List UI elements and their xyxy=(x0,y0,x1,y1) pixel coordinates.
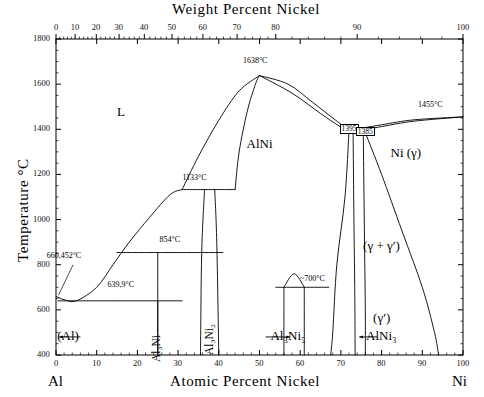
x2tick-label-20: 20 xyxy=(92,23,101,32)
xtick-label-70: 70 xyxy=(336,359,345,368)
annotation-700C: ~700°C xyxy=(300,275,325,283)
boundary-AlNi3-left-bound xyxy=(353,133,355,355)
ytick-label-400: 400 xyxy=(37,350,50,359)
phase-label-Ni-gamma: Ni (γ) xyxy=(391,146,422,159)
phase-label-Al3Ni2: Al₃Ni₂ xyxy=(204,324,216,355)
x2tick-label-50: 50 xyxy=(167,23,176,32)
axis-ticks xyxy=(56,34,463,355)
annotation-1385: 1385 xyxy=(356,127,375,137)
phase-label-AlNi: AlNi xyxy=(247,137,273,150)
xtick-label-0: 0 xyxy=(54,359,58,368)
x2tick-label-40: 40 xyxy=(140,23,149,32)
xtick-label-50: 50 xyxy=(255,359,264,368)
x2tick-label-10: 10 xyxy=(71,23,80,32)
xtick-label-30: 30 xyxy=(174,359,183,368)
boundary-AlNi-solidus-left xyxy=(235,76,259,190)
phase-label-Al3Ni: Al₃Ni xyxy=(151,335,163,362)
phase-label-gamma-prime: (γ′) xyxy=(373,311,390,324)
annotation-660452C: 660,452°C xyxy=(47,252,82,260)
boundary-AlNi-solvus-right xyxy=(260,76,350,131)
xtick-label-90: 90 xyxy=(418,359,427,368)
phase-label-AlNi3: AlNi₃ xyxy=(366,329,397,342)
phase-label-Al-solid-solution: (Al) xyxy=(57,329,79,342)
xtick-label-80: 80 xyxy=(377,359,386,368)
ytick-label-800: 800 xyxy=(37,260,50,269)
axes-frame xyxy=(56,39,463,355)
annotation-1455C: 1455°C xyxy=(418,101,443,109)
phase-label-gamma-plus-gamma-prime: (γ + γ′) xyxy=(363,239,400,252)
phase-label-Al3Ni5: Al₃Ni₅ xyxy=(270,329,305,342)
annotation-1638C: 1638°C xyxy=(243,57,268,65)
ytick-label-1400: 1400 xyxy=(33,124,50,133)
xtick-label-10: 10 xyxy=(92,359,101,368)
xtick-label-100: 100 xyxy=(457,359,470,368)
x2tick-label-60: 60 xyxy=(198,23,207,32)
annotation-854C: 854°C xyxy=(159,236,180,244)
ytick-label-1800: 1800 xyxy=(33,34,50,43)
phase-label-L: L xyxy=(117,105,125,118)
x2tick-label-30: 30 xyxy=(115,23,124,32)
annotation-6399C: 639,9°C xyxy=(108,281,135,289)
x2tick-label-100: 100 xyxy=(457,23,470,32)
ytick-label-1000: 1000 xyxy=(33,215,50,224)
x2tick-label-0: 0 xyxy=(54,23,58,32)
x2tick-label-80: 80 xyxy=(271,23,280,32)
annotation-1133C: 1133°C xyxy=(182,174,206,182)
xtick-label-20: 20 xyxy=(133,359,142,368)
ytick-label-600: 600 xyxy=(37,305,50,314)
xtick-label-40: 40 xyxy=(214,359,223,368)
boundary-AlNi-right-phase-bound xyxy=(331,130,349,355)
xtick-label-60: 60 xyxy=(296,359,305,368)
boundary-AlNi-liquidus-right xyxy=(260,76,350,131)
ytick-label-1600: 1600 xyxy=(33,79,50,88)
ytick-label-1200: 1200 xyxy=(33,169,50,178)
x2tick-label-90: 90 xyxy=(353,23,362,32)
x2tick-label-70: 70 xyxy=(233,23,242,32)
phase-diagram-figure: Weight Percent Nickel Atomic Percent Nic… xyxy=(0,0,484,397)
